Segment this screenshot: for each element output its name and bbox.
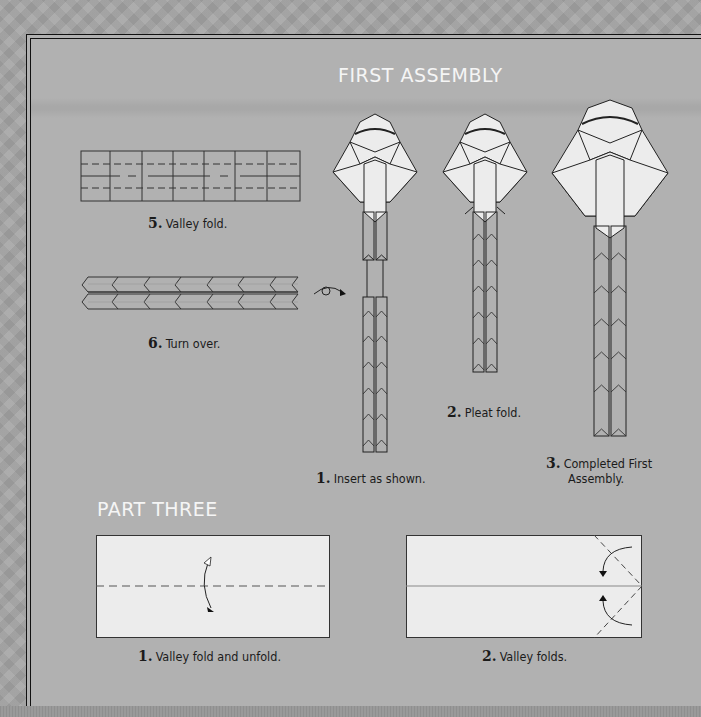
step-number: 3. bbox=[546, 455, 561, 471]
part-three-step-1-caption: 1.Valley fold and unfold. bbox=[138, 648, 281, 664]
step-text: Valley folds. bbox=[500, 649, 568, 664]
first-assembly-step-3-diagram bbox=[550, 98, 670, 443]
section-title-first-assembly: FIRST ASSEMBLY bbox=[338, 64, 503, 86]
part-three-step-1-diagram bbox=[96, 535, 330, 638]
step-6-turn-over-diagram bbox=[80, 275, 305, 311]
step-text: Insert as shown. bbox=[334, 471, 426, 486]
step-6-caption: 6.Turn over. bbox=[148, 335, 220, 351]
first-assembly-step-1-caption: 1.Insert as shown. bbox=[316, 470, 426, 486]
step-text: Valley fold. bbox=[166, 216, 228, 231]
step-text-line-2: Assembly. bbox=[546, 471, 652, 486]
step-number: 5. bbox=[148, 215, 163, 231]
step-number: 1. bbox=[316, 470, 331, 486]
step-number: 2. bbox=[447, 404, 462, 420]
step-5-caption: 5.Valley fold. bbox=[148, 215, 227, 231]
step-number: 1. bbox=[138, 648, 153, 664]
first-assembly-step-2-diagram bbox=[440, 112, 530, 392]
step-5-valley-fold-diagram bbox=[80, 150, 302, 205]
section-title-part-three: PART THREE bbox=[97, 498, 218, 520]
part-three-step-2-diagram bbox=[406, 535, 642, 638]
step-number: 2. bbox=[482, 648, 497, 664]
part-three-step-2-caption: 2.Valley folds. bbox=[482, 648, 567, 664]
step-number: 6. bbox=[148, 335, 163, 351]
first-assembly-step-2-caption: 2.Pleat fold. bbox=[447, 404, 521, 420]
step-text-line-1: Completed First bbox=[564, 456, 653, 471]
step-text: Pleat fold. bbox=[465, 405, 521, 420]
first-assembly-step-1-diagram bbox=[330, 112, 420, 457]
bottom-edge-strip bbox=[0, 706, 701, 717]
first-assembly-step-3-caption: 3.Completed First Assembly. bbox=[546, 456, 652, 486]
step-text: Valley fold and unfold. bbox=[156, 649, 281, 664]
step-text: Turn over. bbox=[166, 336, 221, 351]
fold-unfold-arrow-icon bbox=[204, 557, 214, 612]
